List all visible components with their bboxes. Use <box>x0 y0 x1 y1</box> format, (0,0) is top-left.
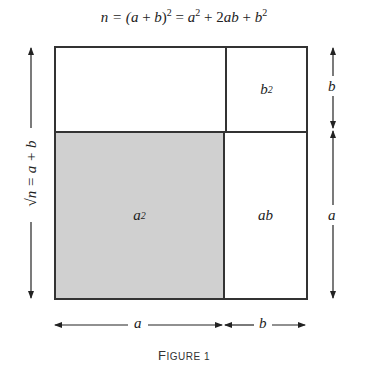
caption-rest: IGURE 1 <box>166 351 210 362</box>
label-bottom-b: b <box>259 315 267 332</box>
label-bottom-a: a <box>134 315 142 332</box>
label-right-a: a <box>328 207 336 224</box>
label-right-b: b <box>328 78 336 95</box>
label-left-sqrt: √n = a + b <box>23 129 40 219</box>
dimension-arrows <box>0 0 368 377</box>
figure-caption: FIGURE 1 <box>0 348 368 363</box>
